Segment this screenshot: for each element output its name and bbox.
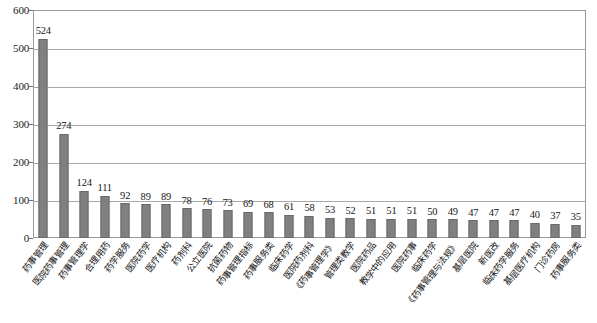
y-tick-label-100: 100 [13,195,29,206]
bar[interactable] [182,208,191,238]
bar-slot: 78 [176,10,196,238]
bar[interactable] [448,219,457,238]
bar-value-label: 50 [427,207,437,218]
bar[interactable] [366,219,375,238]
category-tick: 药学服务 [115,240,135,323]
bar[interactable] [141,204,150,238]
category-axis-labels: 药事管理医院药事管理药事管理学合理用药药学服务医院药学医疗机构药剂科公立医院抗菌… [33,240,586,323]
bar[interactable] [551,224,560,238]
bar-slot: 51 [402,10,422,238]
bar-value-label: 51 [386,206,396,217]
bar-value-label: 47 [509,208,519,219]
bar-slot: 47 [463,10,483,238]
bar-slot: 35 [566,10,586,238]
bar[interactable] [59,134,68,238]
bar-value-label: 76 [202,197,212,208]
bar-slot: 61 [279,10,299,238]
bar-slot: 68 [258,10,278,238]
bar[interactable] [571,225,580,238]
bar[interactable] [223,210,232,238]
bar[interactable] [39,39,48,238]
category-tick: 合理用药 [94,240,114,323]
y-tick-label-600: 600 [13,5,29,16]
bar-slot: 53 [320,10,340,238]
bar-slot: 47 [484,10,504,238]
bar-value-label: 47 [468,208,478,219]
bar[interactable] [530,223,539,238]
bar-slot: 37 [545,10,565,238]
bar-value-label: 78 [182,196,192,207]
bar-slot: 69 [238,10,258,238]
category-tick: 基层医疗机构 [525,240,545,323]
bars-layer: 5242741241119289897876736968615853525151… [33,10,586,238]
y-tick-label-500: 500 [13,43,29,54]
y-tick-label-200: 200 [13,157,29,168]
bar-value-label: 49 [448,207,458,218]
bar-slot: 51 [361,10,381,238]
category-tick: 药事管理学 [74,240,94,323]
bar[interactable] [244,212,253,238]
bar-slot: 47 [504,10,524,238]
bar-value-label: 69 [243,199,253,210]
category-tick: 《药事管理与法规》 [443,240,463,323]
category-tick: 医疗机构 [156,240,176,323]
category-tick: 药事服务类 [566,240,586,323]
bar-slot: 76 [197,10,217,238]
bar-slot: 50 [422,10,442,238]
y-tick-label-300: 300 [13,119,29,130]
bar-value-label: 47 [489,208,499,219]
bar-slot: 73 [217,10,237,238]
bar-slot: 274 [53,10,73,238]
bar[interactable] [121,203,130,238]
y-axis: 0100200300400500600 [0,10,33,238]
bar-value-label: 274 [56,121,71,132]
bar[interactable] [346,218,355,238]
category-tick: 药事管理指标 [238,240,258,323]
bar[interactable] [80,191,89,238]
category-tick: 教学中的应用 [381,240,401,323]
bar-chart: 0100200300400500600 52427412411192898978… [0,0,597,323]
bar-slot: 58 [299,10,319,238]
bar-value-label: 524 [36,26,51,37]
category-tick: 门诊药房 [545,240,565,323]
bar-slot: 51 [381,10,401,238]
bar-slot: 124 [74,10,94,238]
bar-slot: 524 [33,10,53,238]
category-tick: 医院药事管理 [53,240,73,323]
bar-value-label: 58 [304,203,314,214]
bar[interactable] [469,220,478,238]
bar[interactable] [510,220,519,238]
bar-slot: 49 [443,10,463,238]
bar-value-label: 52 [345,206,355,217]
bar[interactable] [305,216,314,238]
bar-value-label: 61 [284,202,294,213]
bar-slot: 111 [94,10,114,238]
bar-value-label: 51 [366,206,376,217]
bar-value-label: 73 [223,198,233,209]
bar-slot: 89 [135,10,155,238]
category-tick: 《药事管理学》 [320,240,340,323]
bar-slot: 40 [525,10,545,238]
bar-value-label: 37 [550,211,560,222]
bar[interactable] [428,219,437,238]
bar-slot: 89 [156,10,176,238]
bar[interactable] [285,215,294,238]
bar-value-label: 92 [120,191,130,202]
bar[interactable] [489,220,498,238]
category-tick: 药剂科 [176,240,196,323]
bar[interactable] [100,196,109,238]
bar-value-label: 35 [571,212,581,223]
y-tick-mark-0 [29,238,33,239]
bar-value-label: 68 [263,200,273,211]
bar[interactable] [407,219,416,238]
bar-value-label: 40 [530,210,540,221]
bar[interactable] [387,219,396,238]
y-tick-label-400: 400 [13,81,29,92]
bar-value-label: 124 [77,178,92,189]
category-tick: 医院药学 [135,240,155,323]
bar[interactable] [325,218,334,238]
bar[interactable] [162,204,171,238]
bar[interactable] [203,209,212,238]
bar[interactable] [264,212,273,238]
bar-slot: 52 [340,10,360,238]
